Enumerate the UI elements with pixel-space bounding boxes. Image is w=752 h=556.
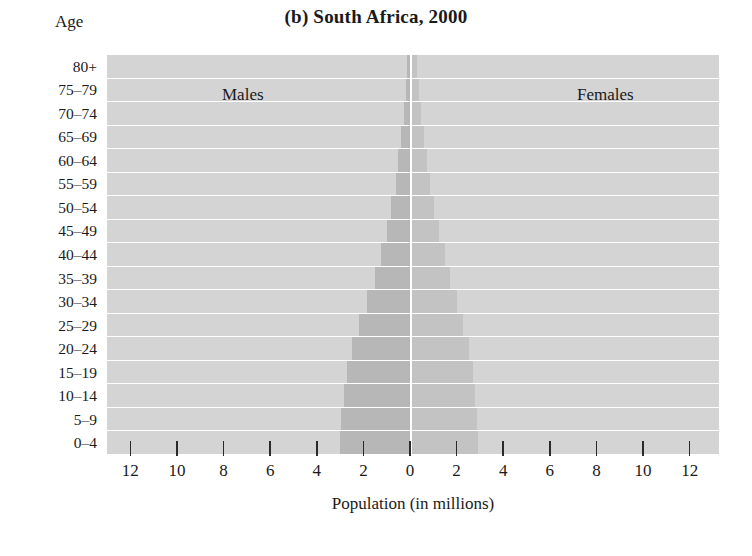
bar-male-50-54 — [391, 196, 410, 219]
bar-male-10-14 — [344, 384, 410, 407]
bar-female-40-44 — [412, 243, 445, 266]
y-axis-caption: Age — [55, 12, 83, 32]
x-tick-label: 8 — [219, 461, 228, 481]
bar-male-45-49 — [387, 220, 410, 243]
x-tick-mark — [689, 441, 691, 456]
x-tick-mark — [363, 441, 365, 456]
x-tick-mark — [223, 441, 225, 456]
plot-area: Males Females — [107, 55, 719, 455]
x-tick-mark — [130, 441, 132, 456]
y-tick-label: 30–34 — [58, 294, 97, 310]
x-tick-mark — [642, 441, 644, 456]
y-tick-label: 0–4 — [74, 435, 97, 451]
pyramid-row — [107, 290, 719, 314]
x-tick-label: 2 — [452, 461, 461, 481]
bar-female-50-54 — [412, 196, 434, 219]
bar-female-35-39 — [412, 267, 450, 290]
bar-female-30-34 — [412, 290, 457, 313]
y-tick-label: 50–54 — [58, 200, 97, 216]
y-tick-label: 60–64 — [58, 153, 97, 169]
x-tick-mark — [269, 441, 271, 456]
bar-male-5-9 — [341, 408, 410, 431]
x-tick-label: 4 — [313, 461, 322, 481]
x-tick-mark — [409, 441, 411, 456]
x-tick-label: 8 — [592, 461, 601, 481]
pyramid-row — [107, 361, 719, 385]
bar-female-5-9 — [412, 408, 477, 431]
x-tick-label: 12 — [122, 461, 139, 481]
x-tick-label: 6 — [266, 461, 275, 481]
bar-male-60-64 — [398, 149, 410, 172]
bar-male-55-59 — [396, 173, 410, 196]
bar-male-20-24 — [352, 337, 410, 360]
pyramid-row — [107, 243, 719, 267]
y-tick-label: 5–9 — [74, 412, 97, 428]
bar-female-60-64 — [412, 149, 427, 172]
x-tick-mark — [456, 441, 458, 456]
pyramid-row — [107, 267, 719, 291]
bar-female-65-69 — [412, 126, 424, 149]
x-tick-mark — [549, 441, 551, 456]
pyramid-row — [107, 384, 719, 408]
x-tick-mark — [316, 441, 318, 456]
bar-male-35-39 — [375, 267, 410, 290]
x-axis-ticks — [107, 441, 719, 457]
bar-female-25-29 — [412, 314, 463, 337]
bar-male-15-19 — [347, 361, 410, 384]
y-tick-label: 40–44 — [58, 247, 97, 263]
bar-male-30-34 — [367, 290, 410, 313]
bar-female-75-79 — [412, 79, 419, 102]
bar-female-15-19 — [412, 361, 473, 384]
bar-male-25-29 — [359, 314, 410, 337]
y-tick-label: 80+ — [73, 59, 97, 75]
chart-title: (b) South Africa, 2000 — [0, 6, 752, 28]
x-tick-label: 6 — [546, 461, 555, 481]
pyramid-row — [107, 173, 719, 197]
pyramid-row — [107, 55, 719, 79]
x-tick-label: 10 — [635, 461, 652, 481]
x-tick-label: 2 — [359, 461, 368, 481]
bar-female-70-74 — [412, 102, 421, 125]
y-tick-label: 70–74 — [58, 106, 97, 122]
pyramid-row — [107, 408, 719, 432]
bar-male-65-69 — [401, 126, 410, 149]
pyramid-row — [107, 220, 719, 244]
y-tick-label: 55–59 — [58, 176, 97, 192]
x-tick-mark — [596, 441, 598, 456]
bar-female-10-14 — [412, 384, 475, 407]
bar-female-45-49 — [412, 220, 439, 243]
x-tick-label: 10 — [168, 461, 185, 481]
x-tick-label: 12 — [681, 461, 698, 481]
y-tick-label: 25–29 — [58, 318, 97, 334]
bar-male-40-44 — [381, 243, 410, 266]
pyramid-row — [107, 102, 719, 126]
pyramid-row — [107, 149, 719, 173]
y-tick-label: 35–39 — [58, 271, 97, 287]
y-axis-labels: 80+75–7970–7465–6960–6455–5950–5445–4940… — [0, 55, 101, 455]
bar-female-55-59 — [412, 173, 430, 196]
y-tick-label: 45–49 — [58, 223, 97, 239]
pyramid-row — [107, 126, 719, 150]
y-tick-label: 15–19 — [58, 365, 97, 381]
population-pyramid-chart: (b) South Africa, 2000 Age 80+75–7970–74… — [0, 0, 752, 556]
bar-female-80+ — [412, 55, 417, 78]
x-tick-label: 0 — [406, 461, 415, 481]
pyramid-row — [107, 196, 719, 220]
x-axis-title: Population (in millions) — [107, 494, 719, 514]
y-tick-label: 65–69 — [58, 129, 97, 145]
pyramid-row — [107, 337, 719, 361]
x-tick-mark — [176, 441, 178, 456]
bar-female-20-24 — [412, 337, 469, 360]
x-tick-mark — [502, 441, 504, 456]
x-axis-tick-labels: 12108642024681012 — [107, 461, 719, 487]
pyramid-row — [107, 314, 719, 338]
x-tick-label: 4 — [499, 461, 508, 481]
y-tick-label: 75–79 — [58, 82, 97, 98]
zero-axis-line — [410, 55, 412, 455]
y-tick-label: 10–14 — [58, 388, 97, 404]
series-label-males: Males — [222, 85, 264, 105]
series-label-females: Females — [577, 85, 634, 105]
y-tick-label: 20–24 — [58, 341, 97, 357]
